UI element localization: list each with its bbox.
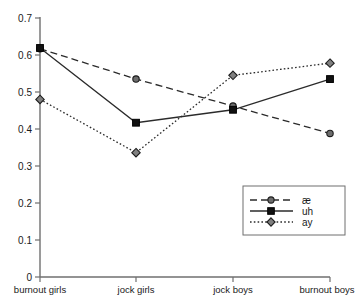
y-tick-label-0.6: 0.6 [18,50,32,61]
legend-label-ae: æ [302,195,311,206]
data-point-ay-jock-girls [132,148,140,156]
data-point-uh-burnout-boys [327,76,334,83]
line-chart-figure: 0.7 0.6 0.5 0.4 0.3 0.2 0.1 0 burnout gi… [0,0,358,307]
series-line-uh [40,48,330,123]
y-tick-label-0.2: 0.2 [18,198,32,209]
series-ay [36,59,334,157]
y-axis [35,17,40,277]
series-line-ae [40,49,330,134]
data-series-layer [36,45,334,157]
legend-marker-uh [268,208,275,215]
y-tick-label-0.7: 0.7 [18,13,32,24]
x-label-burnout-girls: burnout girls [14,284,67,295]
data-point-ay-burnout-boys [326,59,334,67]
legend-label-ay: ay [302,217,313,228]
legend-marker-ae [268,197,274,203]
series-line-ay [40,63,330,153]
x-label-jock-girls: jock girls [117,284,155,295]
data-point-ae-jock-girls [133,76,139,82]
y-tick-label-0.4: 0.4 [18,124,32,135]
legend-label-uh: uh [302,206,313,217]
data-point-ay-burnout-girls [36,95,44,103]
x-tick-labels: burnout girls jock girls jock boys burno… [14,284,355,295]
data-point-uh-jock-boys [230,106,237,113]
y-tick-label-0.5: 0.5 [18,87,32,98]
y-tick-labels: 0.7 0.6 0.5 0.4 0.3 0.2 0.1 0 [18,13,32,283]
x-axis [40,277,330,282]
x-label-burnout-boys: burnout boys [300,284,355,295]
legend[interactable]: æ uh ay [243,186,345,235]
y-tick-label-0.1: 0.1 [18,235,32,246]
series-ae [37,46,333,137]
data-point-uh-jock-girls [133,119,140,126]
data-point-ay-jock-boys [229,71,237,79]
y-tick-label-0: 0 [26,272,32,283]
chart-canvas: 0.7 0.6 0.5 0.4 0.3 0.2 0.1 0 burnout gi… [0,0,358,307]
x-label-jock-boys: jock boys [212,284,253,295]
data-point-uh-burnout-girls [37,45,44,52]
data-point-ae-burnout-boys [327,130,333,136]
y-tick-label-0.3: 0.3 [18,161,32,172]
